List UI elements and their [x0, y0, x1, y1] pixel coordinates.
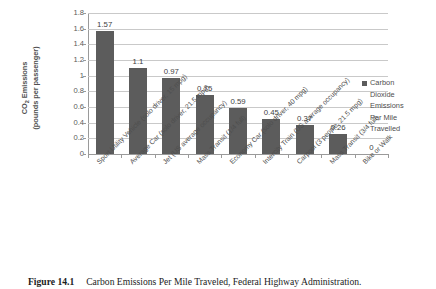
y-axis-tick-label: 1.8: [58, 9, 84, 17]
bar[interactable]: [96, 31, 114, 154]
y-axis-tick-mark: [83, 154, 86, 155]
chart-legend: CarbonDioxideEmissionsPer MileTravelled: [362, 77, 436, 135]
figure-caption: Figure 14.1Carbon Emissions Per Mile Tra…: [28, 276, 428, 287]
legend-label-line: Dioxide: [370, 89, 436, 101]
legend-label-line: Carbon: [370, 77, 436, 89]
y-axis-title-line-1: CO2 Emissions: [20, 36, 31, 140]
y-axis-title: CO2 Emissions (pounds per passenger): [20, 36, 46, 140]
y-axis-tick-label: 0.4: [58, 119, 84, 127]
gridline: [88, 44, 388, 45]
gridline: [88, 29, 388, 30]
y-axis-tick-mark: [83, 76, 86, 77]
y-axis-tick-labels: 1.81.61.41.210.80.60.40.20: [56, 13, 84, 154]
figure-container: CO2 Emissions (pounds per passenger) 1.8…: [0, 0, 436, 289]
legend-entry-label: CarbonDioxideEmissionsPer MileTravelled: [370, 77, 436, 135]
x-axis-category-labels: Sport Utility Vehicle (solo driver, 15 m…: [0, 158, 436, 268]
y-axis-tick-mark: [83, 60, 86, 61]
legend-label-line: Travelled: [370, 123, 436, 135]
y-axis-tick-label: 1: [58, 72, 84, 80]
figure-caption-label: Figure 14.1: [28, 276, 74, 287]
y-axis-tick-label: 1.4: [58, 40, 84, 48]
legend-swatch-icon: [362, 81, 367, 86]
y-axis-tick-mark: [83, 29, 86, 30]
y-axis-tick-mark: [83, 13, 86, 14]
bar-value-label: 1.1: [121, 57, 155, 66]
legend-label-line: Emissions: [370, 100, 436, 112]
figure-caption-text: Carbon Emissions Per Mile Traveled, Fede…: [86, 276, 361, 287]
gridline: [88, 13, 388, 14]
y-axis-tick-label: 0.8: [58, 87, 84, 95]
y-axis-tick-label: 0.2: [58, 134, 84, 142]
y-axis-tick-mark: [83, 138, 86, 139]
y-axis-tick-mark: [83, 107, 86, 108]
y-axis-tick-mark: [83, 123, 86, 124]
y-axis-title-subscript: 2: [24, 100, 30, 103]
y-axis-tick-label: 1.6: [58, 25, 84, 33]
y-axis-title-line-2: (pounds per passenger): [31, 36, 41, 140]
y-axis-tick-label: 0.6: [58, 103, 84, 111]
y-axis-tick-label: 0: [58, 150, 84, 158]
y-axis-tick-label: 1.2: [58, 56, 84, 64]
legend-label-line: Per Mile: [370, 112, 436, 124]
bar-value-label: 1.57: [88, 20, 122, 29]
y-axis-tick-mark: [83, 91, 86, 92]
y-axis-tick-mark: [83, 44, 86, 45]
